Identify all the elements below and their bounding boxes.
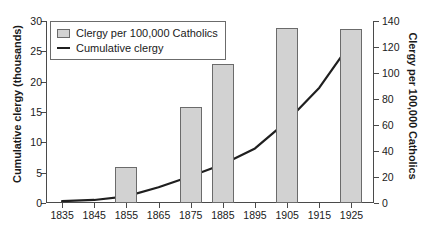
y-right-tick-label: 20 xyxy=(382,172,422,183)
y-left-tick-label: 20 xyxy=(2,77,42,88)
legend-label-line: Cumulative clergy xyxy=(76,42,163,54)
x-tick xyxy=(351,203,352,208)
x-tick xyxy=(191,203,192,208)
y-right-tick xyxy=(374,177,379,178)
y-right-tick-label: 100 xyxy=(382,68,422,79)
y-right-tick-label: 40 xyxy=(382,146,422,157)
bar xyxy=(212,64,234,203)
x-tick xyxy=(94,203,95,208)
bar xyxy=(340,29,362,203)
legend-item-line: Cumulative clergy xyxy=(57,41,218,55)
y-right-tick-label: 140 xyxy=(382,16,422,27)
y-left-tick-label: 30 xyxy=(2,16,42,27)
bar xyxy=(180,107,202,203)
bar xyxy=(276,28,298,204)
y-right-tick-label: 120 xyxy=(382,42,422,53)
x-tick-label: 1925 xyxy=(331,210,371,221)
chart-container: Cumulative clergy (thousands) Clergy per… xyxy=(0,0,423,242)
chart-legend: Clergy per 100,000 Catholics Cumulative … xyxy=(50,21,226,60)
legend-label-bars: Clergy per 100,000 Catholics xyxy=(76,27,218,39)
x-tick xyxy=(62,203,63,208)
legend-item-bars: Clergy per 100,000 Catholics xyxy=(57,26,218,40)
y-left-tick-label: 0 xyxy=(2,198,42,209)
y-right-tick xyxy=(374,73,379,74)
y-right-tick xyxy=(374,21,379,22)
y-right-tick xyxy=(374,203,379,204)
y-left-tick-label: 25 xyxy=(2,46,42,57)
y-right-tick xyxy=(374,125,379,126)
x-tick xyxy=(319,203,320,208)
line-swatch-icon xyxy=(57,47,70,49)
bar-swatch-icon xyxy=(57,29,70,38)
y-right-tick xyxy=(374,99,379,100)
y-right-tick xyxy=(374,151,379,152)
y-left-tick-label: 10 xyxy=(2,137,42,148)
y-right-tick-label: 60 xyxy=(382,120,422,131)
y-left-tick-label: 5 xyxy=(2,168,42,179)
x-tick xyxy=(126,203,127,208)
y-right-tick-label: 80 xyxy=(382,94,422,105)
y-right-tick xyxy=(374,47,379,48)
bar xyxy=(115,167,137,203)
y-left-tick-label: 15 xyxy=(2,107,42,118)
x-tick xyxy=(287,203,288,208)
x-tick xyxy=(223,203,224,208)
x-tick xyxy=(255,203,256,208)
line-path xyxy=(62,42,351,201)
x-tick xyxy=(159,203,160,208)
y-right-tick-label: 0 xyxy=(382,198,422,209)
